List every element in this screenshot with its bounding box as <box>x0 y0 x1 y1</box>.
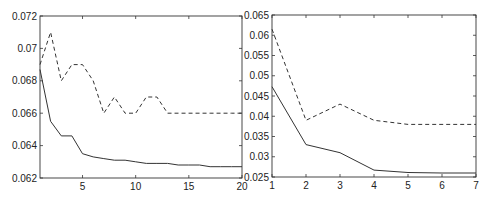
y-tick-label: 0.068 <box>12 75 37 86</box>
y-tick-label: 0.065 <box>244 10 269 21</box>
x-tick-label: 20 <box>236 181 248 192</box>
x-tick-label: 2 <box>303 180 309 191</box>
y-tick-label: 0.064 <box>12 140 37 151</box>
dashed-series-line <box>272 29 476 124</box>
figure-canvas: 0.0620.0640.0660.0680.070.0725101520 0.0… <box>0 0 496 198</box>
y-tick-label: 0.06 <box>250 30 270 41</box>
left-line-chart: 0.0620.0640.0660.0680.070.0725101520 <box>12 11 248 193</box>
solid-series-line <box>272 87 476 173</box>
x-tick-label: 6 <box>439 180 445 191</box>
dashed-series-line <box>40 32 242 113</box>
y-tick-label: 0.062 <box>12 173 37 184</box>
plot-area-frame <box>40 16 242 178</box>
solid-series-line <box>40 70 242 167</box>
y-tick-label: 0.035 <box>244 131 269 142</box>
x-tick-label: 1 <box>269 180 275 191</box>
x-tick-label: 7 <box>473 180 479 191</box>
x-tick-label: 5 <box>405 180 411 191</box>
x-tick-label: 10 <box>130 181 142 192</box>
x-tick-label: 5 <box>80 181 86 192</box>
y-tick-label: 0.05 <box>250 70 270 81</box>
y-tick-label: 0.066 <box>12 108 37 119</box>
x-tick-label: 15 <box>183 181 195 192</box>
y-tick-label: 0.045 <box>244 91 269 102</box>
y-tick-label: 0.055 <box>244 50 269 61</box>
plot-area-frame <box>272 15 476 177</box>
y-tick-label: 0.072 <box>12 11 37 22</box>
y-tick-label: 0.07 <box>18 43 38 54</box>
right-line-chart: 0.0250.030.0350.040.0450.050.0550.060.06… <box>244 10 479 192</box>
x-tick-label: 4 <box>371 180 377 191</box>
y-tick-label: 0.04 <box>250 111 270 122</box>
x-tick-label: 3 <box>337 180 343 191</box>
y-tick-label: 0.025 <box>244 172 269 183</box>
y-tick-label: 0.03 <box>250 151 270 162</box>
